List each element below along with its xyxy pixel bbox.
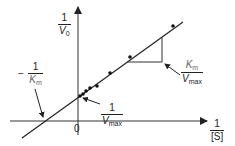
y-label-var: V [59, 25, 66, 36]
y-label-sub: 0 [66, 30, 70, 37]
y-intercept-num: 1 [108, 103, 116, 114]
data-point [78, 94, 82, 98]
y-intercept-label: 1 Vmax [101, 98, 123, 127]
y-intercept-var: V [102, 115, 109, 126]
x-intercept-label: − 1 Km [18, 62, 43, 86]
data-point [128, 55, 132, 59]
lineweaver-burk-chart: 1 V0 1 [S] 0 − 1 Km 1 Vmax Km Vmax [0, 0, 235, 146]
y-label-num: 1 [61, 13, 69, 24]
data-point [88, 86, 92, 90]
x-intercept-pointer [35, 89, 43, 117]
data-point [108, 71, 112, 75]
slope-pointer [165, 64, 180, 75]
y-intercept-sub: max [109, 120, 122, 127]
y-axis-label: 1 V0 [58, 8, 71, 37]
x-intercept-sign: − [18, 68, 24, 79]
slope-label: Km Vmax [181, 55, 203, 85]
data-point [81, 92, 85, 96]
slope-den-sub: max [189, 78, 202, 85]
x-intercept-sub: m [36, 79, 42, 86]
data-point [171, 24, 175, 28]
slope-den-var: V [182, 73, 189, 84]
x-intercept-num: 1 [32, 62, 40, 73]
data-point [84, 89, 88, 93]
x-intercept-var: K [29, 74, 36, 85]
x-label-num: 1 [213, 119, 221, 130]
x-axis-label: 1 [S] [210, 114, 224, 142]
origin-label: 0 [74, 124, 80, 134]
y-intercept-pointer [83, 98, 100, 104]
slope-num-sub: m [192, 64, 198, 71]
x-label-den: [S] [210, 130, 224, 142]
data-point [95, 84, 99, 88]
